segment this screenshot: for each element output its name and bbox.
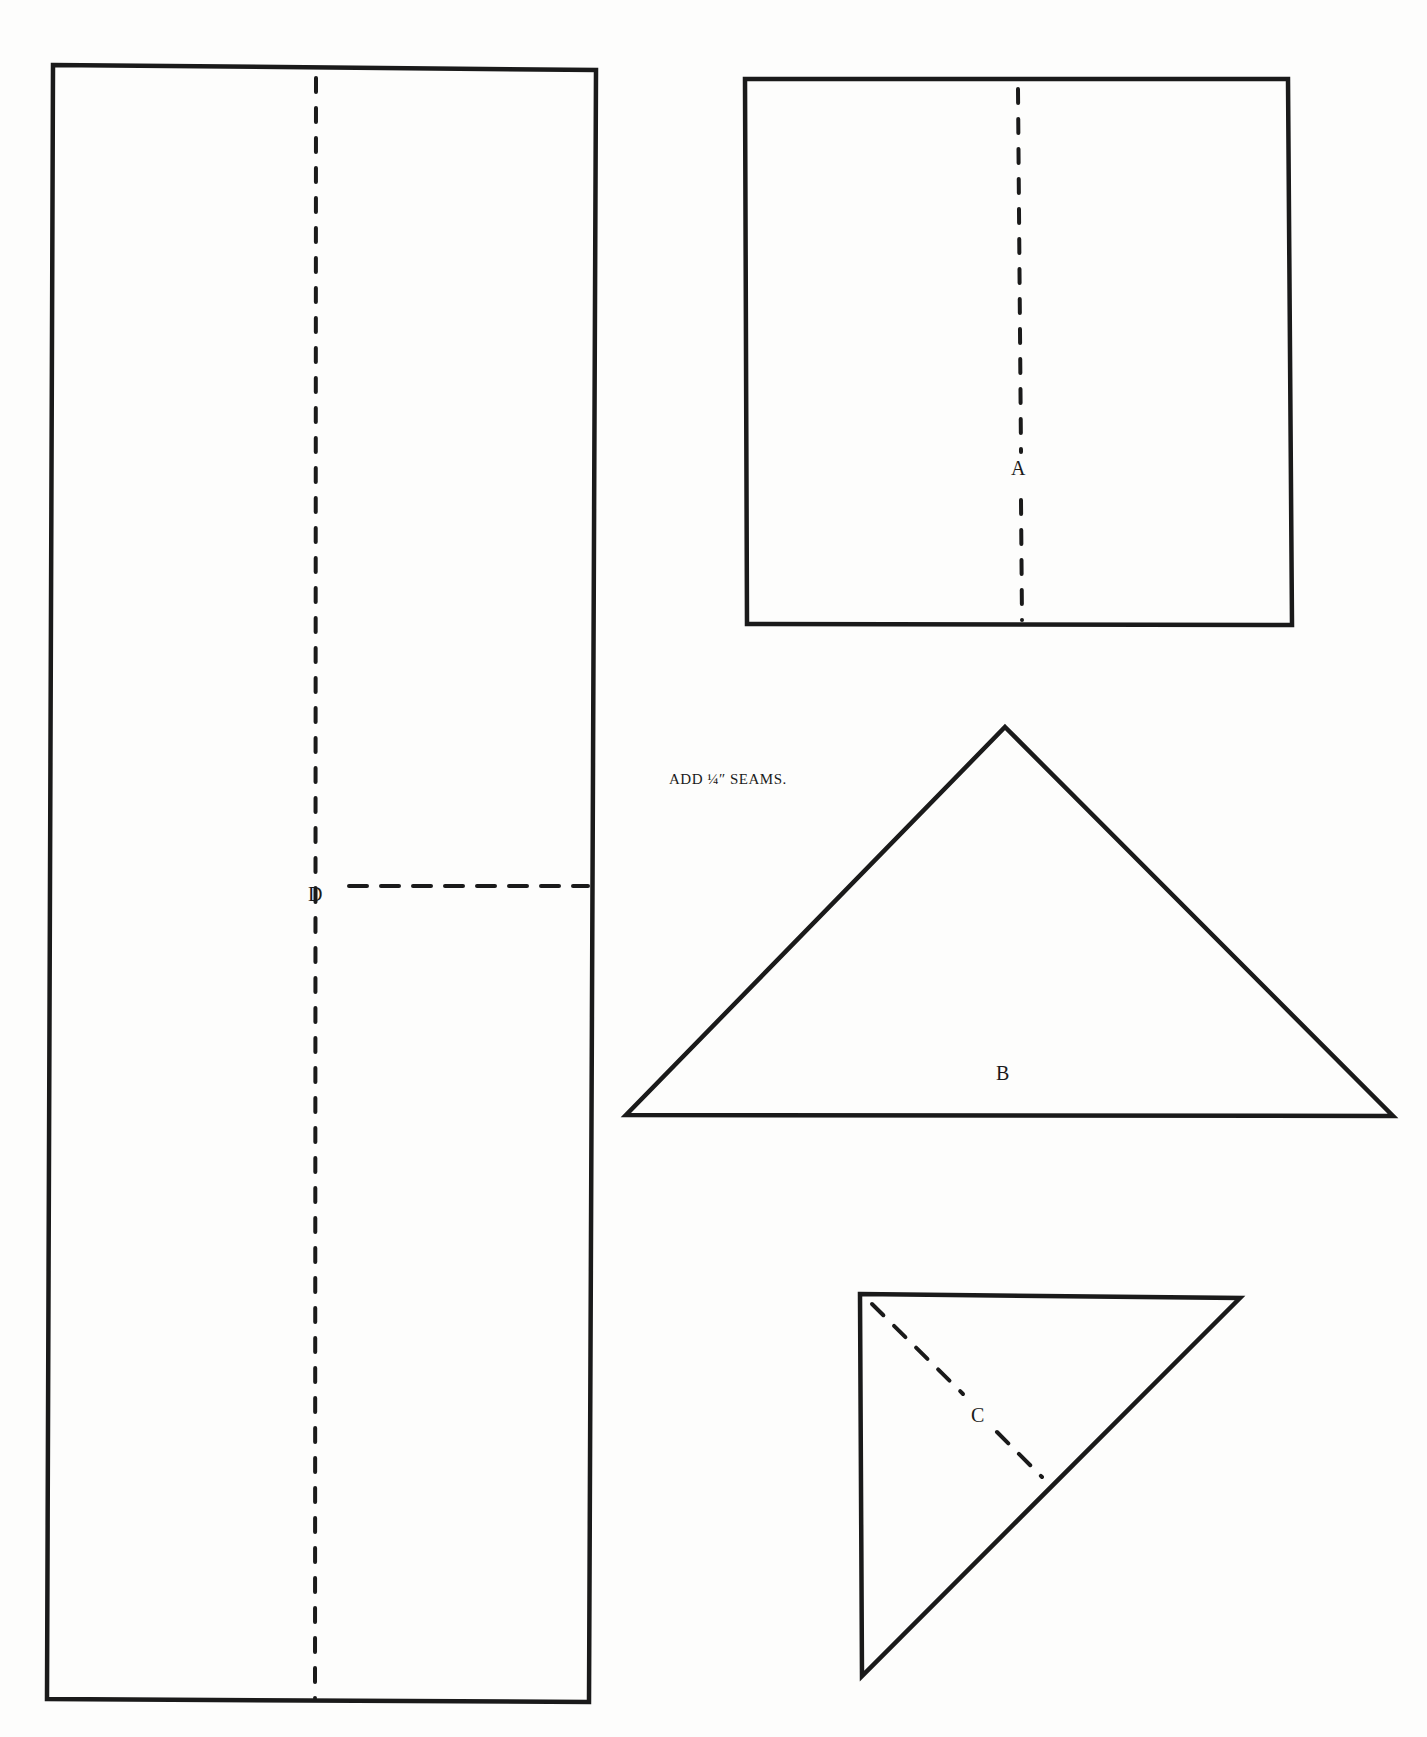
pattern-page: D A B C ADD ¼″ SEAMS.	[0, 0, 1427, 1737]
piece-b-label: B	[996, 1063, 1009, 1083]
piece-a	[745, 79, 1292, 625]
piece-c	[860, 1294, 1240, 1676]
piece-d-label: D	[308, 884, 322, 904]
piece-a-vertical-fold-line	[1018, 89, 1021, 452]
pattern-diagram	[0, 0, 1427, 1737]
piece-c-diagonal-fold-line-upper	[872, 1304, 963, 1394]
seam-allowance-note: ADD ¼″ SEAMS.	[669, 771, 787, 788]
piece-a-vertical-fold-line-lower	[1021, 500, 1022, 620]
piece-a-label: A	[1011, 458, 1025, 478]
piece-c-label: C	[971, 1405, 984, 1425]
piece-c-diagonal-fold-line-lower	[997, 1432, 1042, 1477]
